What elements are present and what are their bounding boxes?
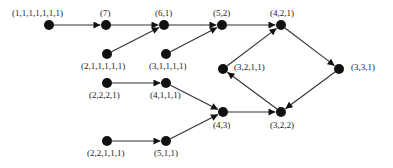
- node-label-n61: (6,1): [155, 8, 172, 18]
- node-n421: [276, 20, 286, 30]
- node-label-n43: (4,3): [213, 120, 230, 130]
- node-n331: [334, 64, 344, 74]
- edge-n211111-to-n61: [111, 27, 159, 51]
- node-n511: [161, 136, 171, 146]
- node-n22111: [102, 136, 112, 146]
- edge-n421-to-n331: [285, 28, 335, 66]
- node-label-n7: (7): [100, 8, 111, 18]
- node-n1111111: [44, 20, 54, 30]
- edge-n322-to-n3211: [227, 72, 277, 109]
- node-label-n2221: (2,2,2,1): [89, 90, 120, 100]
- node-label-n331: (3,3,1): [351, 62, 375, 72]
- partition-graph: [0, 0, 393, 168]
- node-label-n1111111: (1,1,1,1,1,1,1): [12, 8, 63, 18]
- edge-n31111-to-n52: [170, 28, 217, 52]
- node-n2221: [102, 78, 112, 88]
- node-label-n211111: (2,1,1,1,1,1): [81, 61, 125, 71]
- node-n61: [159, 20, 169, 30]
- edge-n3211-to-n421: [227, 28, 277, 66]
- node-n211111: [102, 49, 112, 59]
- node-label-n31111: (3,1,1,1,1): [149, 61, 187, 71]
- node-n52: [217, 20, 227, 30]
- node-n322: [276, 107, 286, 117]
- node-n4111: [161, 78, 171, 88]
- node-n3211: [218, 64, 228, 74]
- node-n7: [101, 20, 111, 30]
- node-label-n511: (5,1,1): [154, 148, 178, 158]
- edge-n331-to-n322: [285, 72, 335, 109]
- node-n31111: [161, 49, 171, 59]
- edge-n511-to-n43: [170, 114, 218, 138]
- node-label-n52: (5,2): [213, 8, 230, 18]
- node-n43: [218, 107, 228, 117]
- node-label-n322: (3,2,2): [270, 120, 294, 130]
- node-label-n3211: (3,2,1,1): [234, 62, 265, 72]
- node-label-n421: (4,2,1): [270, 8, 294, 18]
- node-label-n4111: (4,1,1,1): [150, 90, 181, 100]
- node-label-n22111: (2,2,1,1,1): [87, 148, 125, 158]
